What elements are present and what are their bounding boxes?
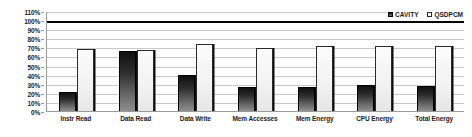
legend-label-qsdpcm: QSDPCM: [434, 11, 463, 18]
hollow-square-swatch-icon: [427, 12, 432, 17]
y-axis-tick: [41, 94, 44, 95]
y-axis-tick: [41, 112, 44, 113]
y-axis-tick-label: 70%: [28, 45, 40, 52]
bar-group: [285, 12, 345, 111]
y-axis-tick-label: 30%: [28, 81, 40, 88]
x-axis-tick-label: Total Energy: [404, 115, 464, 122]
bar-group: [47, 12, 107, 111]
y-axis-tick: [41, 57, 44, 58]
y-axis-tick: [41, 85, 44, 86]
bar-group: [107, 12, 167, 111]
bar-cavity: [119, 51, 136, 111]
bar-cavity: [417, 86, 434, 111]
bar-group: [404, 12, 464, 111]
chart-legend: CAVITY QSDPCM: [387, 11, 464, 18]
y-axis-tick: [41, 48, 44, 49]
bar-cavity: [298, 87, 315, 111]
y-axis-tick-label: 100%: [24, 18, 40, 25]
y-axis-tick-label: 0%: [31, 109, 40, 116]
x-axis-tick-label: Mem Accesses: [225, 115, 285, 122]
bar-cavity: [178, 75, 195, 111]
y-axis-tick-label: 10%: [28, 99, 40, 106]
y-axis-tick: [41, 39, 44, 40]
bar-cavity: [357, 85, 374, 111]
x-axis-tick-label: CPU Energy: [345, 115, 405, 122]
y-axis-tick-label: 80%: [28, 36, 40, 43]
legend-label-cavity: CAVITY: [395, 11, 418, 18]
bar-chart: CAVITY QSDPCM 0%10%20%30%40%50%60%70%80%…: [0, 0, 472, 137]
bar-qsdpcm: [77, 49, 94, 111]
filled-square-swatch-icon: [388, 12, 393, 17]
x-axis-tick-label: Data Read: [106, 115, 166, 122]
plot-area: [46, 12, 464, 112]
bar-cavity: [238, 87, 255, 111]
y-axis-tick-label: 50%: [28, 63, 40, 70]
y-axis-tick-label: 20%: [28, 90, 40, 97]
y-axis-tick: [41, 21, 44, 22]
bar-qsdpcm: [196, 44, 213, 111]
x-axis: Instr ReadData ReadData WriteMem Accesse…: [46, 115, 464, 122]
legend-item-qsdpcm: QSDPCM: [427, 11, 463, 18]
bar-qsdpcm: [137, 50, 154, 111]
y-axis: 0%10%20%30%40%50%60%70%80%90%100%110%: [0, 12, 44, 112]
y-axis-tick: [41, 76, 44, 77]
y-axis-tick-label: 60%: [28, 54, 40, 61]
y-axis-tick-label: 110%: [25, 9, 40, 16]
bar-qsdpcm: [375, 46, 392, 111]
x-axis-tick-label: Data Write: [165, 115, 225, 122]
bar-qsdpcm: [316, 46, 333, 111]
y-axis-tick: [41, 30, 44, 31]
y-axis-tick-label: 90%: [28, 27, 40, 34]
x-axis-tick-label: Instr Read: [46, 115, 106, 122]
y-axis-tick: [41, 67, 44, 68]
bar-qsdpcm: [256, 48, 273, 111]
bar-qsdpcm: [435, 46, 452, 111]
bar-cavity: [59, 92, 76, 111]
y-axis-tick-label: 40%: [28, 72, 40, 79]
bar-groups: [47, 12, 464, 111]
x-axis-tick-label: Mem Energy: [285, 115, 345, 122]
y-axis-tick: [41, 12, 44, 13]
bar-group: [345, 12, 405, 111]
bar-group: [226, 12, 286, 111]
bar-group: [166, 12, 226, 111]
legend-item-cavity: CAVITY: [388, 11, 418, 18]
y-axis-tick: [41, 103, 44, 104]
